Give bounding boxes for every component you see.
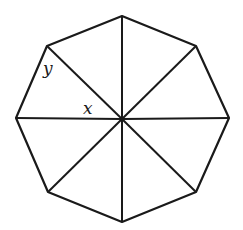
angle-label-x: x [83, 100, 93, 117]
center-point [120, 117, 124, 121]
angle-label-y: y [43, 60, 53, 77]
octagon-diagram [0, 0, 243, 230]
